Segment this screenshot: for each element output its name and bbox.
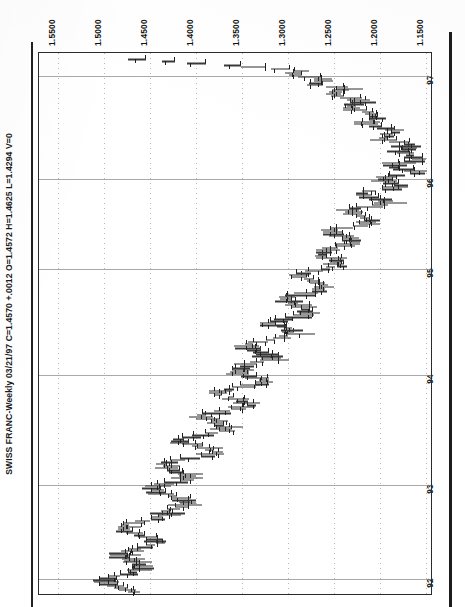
ohlc-close-tick [237, 387, 238, 391]
ohlc-open-tick [363, 187, 364, 191]
ohlc-close-tick [229, 65, 230, 69]
price-tick-label: 1.3000 [264, 0, 310, 46]
outer-border-right [449, 32, 452, 607]
price-gridline [426, 53, 427, 594]
ohlc-open-tick [391, 124, 392, 128]
ohlc-open-tick [253, 338, 254, 342]
ohlc-close-tick [180, 439, 181, 443]
ohlc-open-tick [141, 517, 142, 521]
ohlc-bar [162, 58, 175, 64]
ohlc-open-tick [409, 138, 410, 142]
ohlc-close-tick [190, 63, 191, 67]
ohlc-open-tick [360, 94, 361, 98]
ohlc-open-tick [293, 311, 294, 315]
ohlc-close-tick [146, 537, 147, 541]
ohlc-close-tick [411, 144, 412, 148]
ohlc-open-tick [176, 492, 177, 496]
ohlc-open-tick [414, 167, 415, 171]
page-title: SWISS FRANC-Weekly 03/21/97 C=1.4570 +.0… [4, 133, 14, 475]
ohlc-close-tick [354, 226, 355, 230]
year-tick-label: 92 [434, 567, 448, 589]
price-tick-text: 1.5500 [47, 19, 57, 46]
ohlc-close-tick [260, 378, 261, 382]
ohlc-bar [224, 62, 241, 68]
ohlc-open-tick [145, 55, 146, 59]
ohlc-open-tick [376, 110, 377, 114]
ohlc-bar [222, 396, 249, 402]
ohlc-close-tick [336, 228, 337, 232]
ohlc-close-tick [225, 389, 226, 393]
ohlc-open-tick [320, 73, 321, 77]
ohlc-close-tick [240, 407, 241, 411]
ohlc-open-tick [398, 179, 399, 183]
ohlc-close-tick [364, 216, 365, 220]
ohlc-close-tick [226, 421, 227, 425]
ohlc-close-tick [294, 301, 295, 305]
ohlc-close-tick [228, 397, 229, 401]
ohlc-close-tick [233, 431, 234, 435]
ohlc-close-tick [330, 248, 331, 252]
year-tick-label: 97 [434, 64, 448, 86]
ohlc-open-tick [127, 584, 128, 588]
ohlc-open-tick [232, 383, 233, 387]
ohlc-close-tick [216, 452, 217, 456]
ohlc-close-tick [402, 169, 403, 173]
ohlc-open-tick [164, 478, 165, 482]
ohlc-open-tick [202, 409, 203, 413]
ohlc-open-tick [266, 336, 267, 340]
ohlc-close-tick [395, 151, 396, 155]
ohlc-close-tick [176, 482, 177, 486]
ohlc-close-tick [383, 177, 384, 181]
ohlc-open-tick [369, 214, 370, 218]
price-tick-label: 1.5000 [80, 0, 126, 46]
ohlc-close-tick [383, 199, 384, 203]
ohlc-open-tick [372, 108, 373, 112]
price-gridline [288, 53, 289, 594]
ohlc-open-tick [244, 360, 245, 364]
ohlc-close-tick [144, 521, 145, 525]
ohlc-open-tick [378, 193, 379, 197]
price-gridline [242, 53, 243, 594]
ohlc-close-tick [131, 549, 132, 553]
ohlc-open-tick [205, 59, 206, 63]
ohlc-close-tick [283, 319, 284, 323]
ohlc-open-tick [240, 61, 241, 65]
ohlc-open-tick [308, 267, 309, 271]
ohlc-open-tick [244, 395, 245, 399]
year-gridline [39, 76, 431, 77]
ohlc-open-tick [178, 435, 179, 439]
ohlc-open-tick [365, 96, 366, 100]
ohlc-close-tick [375, 191, 376, 195]
ohlc-range-line [205, 432, 217, 433]
ohlc-open-tick [371, 216, 372, 220]
ohlc-close-tick [354, 98, 355, 102]
ohlc-close-tick [208, 433, 209, 437]
ohlc-open-tick [253, 399, 254, 403]
ohlc-close-tick [210, 448, 211, 452]
price-tick-text: 1.2000 [369, 19, 379, 46]
ohlc-open-tick [123, 582, 124, 586]
price-tick-label: 1.1500 [402, 0, 448, 46]
ohlc-open-tick [285, 313, 286, 317]
ohlc-open-tick [321, 265, 322, 269]
ohlc-close-tick [301, 71, 302, 75]
ohlc-close-tick [166, 462, 167, 466]
ohlc-close-tick [206, 417, 207, 421]
price-tick-label: 1.2000 [356, 0, 402, 46]
ohlc-bar [187, 60, 205, 66]
ohlc-range-line [331, 228, 353, 229]
ohlc-range-line [354, 121, 380, 122]
ohlc-open-tick [174, 57, 175, 61]
ohlc-open-tick [356, 203, 357, 207]
ohlc-close-tick [370, 220, 371, 224]
ohlc-open-tick [229, 385, 230, 389]
ohlc-close-tick [265, 67, 266, 71]
ohlc-open-tick [275, 315, 276, 319]
price-tick-text: 1.1500 [415, 19, 425, 46]
year-gridline [39, 485, 431, 486]
ohlc-close-tick [369, 112, 370, 116]
ohlc-close-tick [392, 163, 393, 167]
ohlc-close-tick [345, 104, 346, 108]
ohlc-open-tick [380, 195, 381, 199]
ohlc-open-tick [377, 112, 378, 116]
